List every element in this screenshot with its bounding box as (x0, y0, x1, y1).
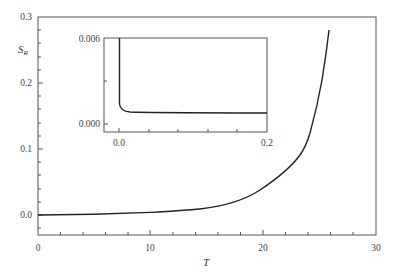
main-y-tick-label: 0.2 (20, 78, 32, 88)
main-x-tick-label: 20 (258, 243, 268, 253)
main-y-ticks (38, 30, 43, 228)
y-axis-title: SR (18, 43, 29, 57)
main-x-tick-label: 0 (36, 243, 41, 253)
inset-y-tick-label: 0.000 (79, 119, 101, 129)
y-axis-title-subscript: R (23, 49, 29, 57)
inset-y-tick-label: 0.006 (79, 34, 101, 44)
main-y-tick-label: 0.1 (20, 144, 32, 154)
inset-plot-frame (104, 38, 267, 132)
x-axis-title: T (203, 256, 210, 268)
main-x-tick-label: 30 (371, 243, 381, 253)
main-x-tick-label: 10 (145, 243, 155, 253)
main-y-tick-label: 0.0 (20, 210, 32, 220)
main-y-tick-label: 0.3 (20, 12, 32, 22)
inset-x-tick-label: 0.2 (261, 138, 273, 148)
inset-x-tick-label: 0.0 (113, 138, 125, 148)
chart-canvas: 0.0 0.1 0.2 0.3 0 10 20 30 T SR 0.000 0.… (0, 0, 398, 280)
main-x-ticks (61, 230, 354, 235)
